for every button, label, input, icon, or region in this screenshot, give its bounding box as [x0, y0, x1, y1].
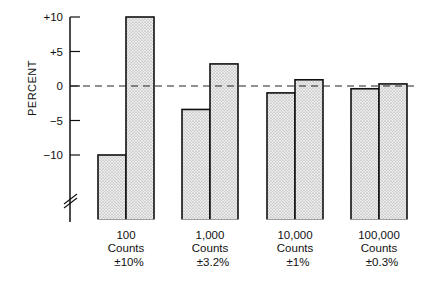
category-count-label: 1,000: [196, 229, 225, 241]
category-unit-label: Counts: [361, 242, 398, 254]
bar-high: [379, 84, 407, 220]
bar-high: [295, 80, 323, 220]
bar-low: [182, 109, 210, 220]
x-axis-category-labels: 100Counts±10%1,000Counts±3.2%10,000Count…: [108, 229, 400, 268]
category-error-label: ±3.2%: [197, 256, 230, 268]
category-count-label: 10,000: [277, 229, 312, 241]
category-unit-label: Counts: [192, 242, 229, 254]
y-axis-label: PERCENT: [26, 60, 38, 116]
y-tick-label: +10: [43, 11, 63, 23]
y-tick-label: 0: [57, 80, 63, 92]
y-tick-label: −10: [43, 149, 63, 161]
category-error-label: ±1%: [287, 256, 310, 268]
y-tick-label: +5: [50, 46, 63, 58]
category-unit-label: Counts: [277, 242, 314, 254]
bar-high: [210, 64, 238, 220]
bar-low: [267, 93, 295, 220]
category-count-label: 100: [116, 229, 135, 241]
bars: [96, 17, 409, 224]
category-count-label: 100,000: [358, 229, 400, 241]
bar-high: [126, 17, 154, 220]
bar-low: [351, 89, 379, 220]
category-error-label: ±0.3%: [366, 256, 399, 268]
category-unit-label: Counts: [108, 242, 145, 254]
bar-low: [98, 155, 126, 220]
y-tick-label: −5: [50, 115, 63, 127]
category-error-label: ±10%: [114, 256, 143, 268]
bar-chart: PERCENT +10+50−5−10 100Counts±10%1,000Co…: [0, 0, 435, 290]
